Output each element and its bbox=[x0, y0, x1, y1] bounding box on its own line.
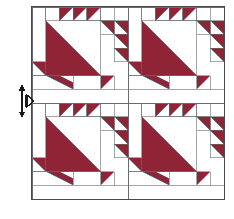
base-rect-upper bbox=[169, 76, 196, 90]
block-bottom-left[interactable] bbox=[32, 103, 128, 199]
base-rect-upper bbox=[73, 172, 100, 186]
corner-light-square bbox=[101, 7, 115, 21]
base-rect-lower bbox=[32, 185, 128, 199]
left-light-column bbox=[32, 7, 46, 62]
block-top-left[interactable] bbox=[32, 7, 128, 103]
block-top-right[interactable] bbox=[128, 7, 224, 103]
base-rect-lower bbox=[128, 89, 224, 103]
top-left-light-square bbox=[46, 7, 60, 21]
quilt-diagram bbox=[0, 0, 234, 219]
base-rect-upper bbox=[73, 76, 100, 90]
corner-light-square bbox=[197, 7, 211, 21]
sawtooth-basket-block-set bbox=[32, 7, 225, 200]
corner-light-square bbox=[101, 103, 115, 117]
left-light-column bbox=[128, 103, 142, 158]
block-bottom-right[interactable] bbox=[128, 103, 224, 199]
base-rect-lower bbox=[32, 89, 128, 103]
left-light-column bbox=[32, 103, 46, 158]
base-rect-upper bbox=[169, 172, 196, 186]
left-light-column bbox=[128, 7, 142, 62]
top-left-light-square bbox=[142, 103, 156, 117]
top-left-light-square bbox=[142, 7, 156, 21]
top-left-light-square bbox=[46, 103, 60, 117]
base-rect-lower bbox=[128, 185, 224, 199]
diagram-canvas bbox=[0, 0, 234, 219]
corner-light-square bbox=[197, 103, 211, 117]
